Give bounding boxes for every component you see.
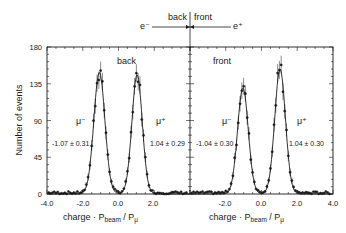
x-axis-label-right: charge · Pbeam / Pμ: [209, 212, 284, 224]
back-mu-plus-label: μ⁺: [156, 116, 166, 126]
back-mu-plus-fit: 1.04 ± 0.29: [150, 140, 185, 147]
svg-text:0.0: 0.0: [256, 199, 266, 208]
svg-text:4.0: 4.0: [328, 199, 338, 208]
charge-distribution-chart: back front e⁻ e⁺ 0 45 90 135 180 Number …: [0, 0, 346, 233]
svg-text:-4.0: -4.0: [41, 199, 54, 208]
svg-text:charge · Pbeam / Pμ: charge · Pbeam / Pμ: [63, 212, 138, 224]
back-mu-minus-label: μ⁻: [76, 116, 86, 126]
svg-text:2.0: 2.0: [148, 199, 158, 208]
svg-text:charge · Pbeam / Pμ: charge · Pbeam / Pμ: [209, 212, 284, 224]
y-axis-label: Number of events: [14, 84, 24, 156]
back-mu-minus-fit: -1.07 ± 0.31: [52, 140, 89, 147]
y-tick-0: 0: [38, 190, 42, 199]
y-tick-90: 90: [34, 117, 42, 126]
front-mu-plus-label: μ⁺: [297, 116, 307, 126]
electron-label: e⁻: [140, 21, 150, 31]
top-back-label: back: [168, 12, 188, 22]
front-mu-minus-label: μ⁻: [222, 116, 232, 126]
svg-text:-2.0: -2.0: [219, 199, 232, 208]
y-tick-180: 180: [29, 43, 42, 52]
svg-text:0.0: 0.0: [113, 199, 123, 208]
x-axis-label-left: charge · Pbeam / Pμ: [63, 212, 138, 224]
svg-text:2.0: 2.0: [292, 199, 302, 208]
y-tick-labels: 0 45 90 135 180: [29, 43, 42, 199]
panel-back-label: back: [117, 56, 137, 66]
beam-direction-diagram: back front e⁻ e⁺: [140, 12, 243, 48]
front-mu-plus-fit: 1.04 ± 0.30: [289, 140, 324, 147]
y-tick-135: 135: [29, 80, 42, 89]
top-front-label: front: [194, 12, 213, 22]
y-tick-45: 45: [34, 153, 42, 162]
positron-label: e⁺: [233, 21, 243, 31]
svg-text:-2.0: -2.0: [77, 199, 90, 208]
x-tick-labels: -4.0 -2.0 0.0 2.0 -2.0 0.0 2.0 4.0: [41, 199, 339, 208]
front-mu-minus-fit: -1.04 ± 0.30: [196, 140, 233, 147]
panel-front-label: front: [213, 56, 232, 66]
